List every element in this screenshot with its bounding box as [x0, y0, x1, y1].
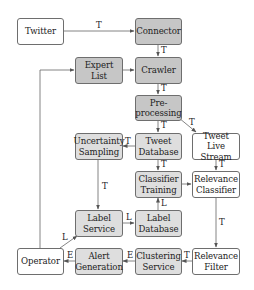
node-tweet-database: Tweet Database	[135, 133, 182, 160]
node-preprocessing: Pre- processing	[135, 95, 182, 121]
edge-label-twitter-connector: T	[96, 21, 102, 30]
edge-label-connector-crawler: T	[161, 46, 167, 55]
node-tweet-live-stream: Tweet Live Stream	[192, 133, 240, 160]
node-expert-list: Expert List	[75, 57, 123, 84]
edge-label-tweetdb-classifiertraining: T	[161, 160, 167, 169]
architecture-diagram: T T T T T T T T T L L T L T E E Twitter …	[0, 0, 254, 290]
edge-label-labeldb-classifiertraining: L	[161, 199, 167, 208]
node-label-database: Label Database	[135, 210, 182, 237]
node-relevance-classifier: Relevance Classifier	[192, 171, 240, 198]
node-relevance-filter: Relevance Filter	[192, 248, 240, 275]
edge-label-clustering-alert: E	[127, 251, 133, 260]
edge-label-preprocessing-tweetdb: T	[161, 121, 167, 130]
node-alert-generation: Alert Generation	[75, 248, 123, 275]
node-twitter: Twitter	[17, 18, 64, 45]
node-operator: Operator	[17, 248, 64, 275]
node-clustering-service: Clustering Service	[135, 248, 182, 275]
edge-label-crawler-preprocessing: T	[161, 84, 167, 93]
node-classifier-training: Classifier Training	[135, 171, 182, 198]
node-crawler: Crawler	[135, 57, 182, 84]
edge-label-labelservice-labeldb: L	[126, 213, 132, 222]
edge-label-alert-operator: E	[67, 251, 73, 260]
edge-label-uncertainty-labelservice: T	[102, 182, 108, 191]
node-connector: Connector	[135, 18, 182, 45]
edge-label-relevancefilter-clustering: T	[184, 251, 190, 260]
edge-label-preprocessing-livestream: T	[189, 118, 195, 127]
node-uncertainty-sampling: Uncertainty Sampling	[75, 133, 123, 160]
edge-label-operator-labelservice: L	[62, 233, 68, 242]
edge-label-tweetdb-uncertainty: T	[125, 137, 131, 146]
edge-operator-expertlist	[40, 70, 74, 248]
edge-label-relevanceclassifier-relevancefilter: T	[219, 218, 225, 227]
node-label-service: Label Service	[75, 210, 123, 237]
